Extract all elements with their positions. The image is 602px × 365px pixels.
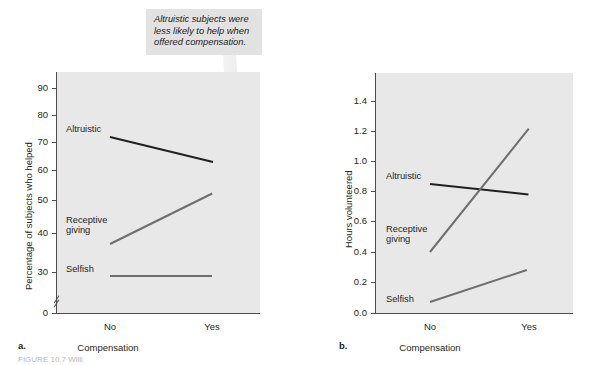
series-label-b-receptive-giving: Receptive giving — [386, 224, 427, 245]
chart-panel-b: Hours volunteered Compensation 1.4 1.2 1… — [0, 0, 602, 355]
y-tick-label-b-1-0: 1.0 — [330, 156, 367, 166]
y-tick-b-0-6 — [371, 221, 375, 222]
y-tick-label-b-0-0: 0.0 — [330, 308, 367, 318]
series-label-b-altruistic: Altruistic — [386, 171, 421, 181]
x-axis-title-b: Compensation — [380, 342, 480, 353]
x-tick-label-b-no: No — [400, 322, 460, 332]
y-tick-label-b-0-4: 0.4 — [330, 247, 367, 257]
figure-root: Altruistic subjects were less likely to … — [0, 0, 602, 365]
y-tick-label-b-0-6: 0.6 — [330, 216, 367, 226]
y-tick-label-b-0-2: 0.2 — [330, 277, 367, 287]
y-tick-label-b-1-2: 1.2 — [330, 126, 367, 136]
panel-letter-b: b. — [339, 340, 347, 351]
x-axis-line-b — [375, 313, 573, 314]
y-tick-b-0-8 — [371, 191, 375, 192]
y-tick-b-1-2 — [371, 131, 375, 132]
y-tick-b-1-4 — [371, 101, 375, 102]
y-tick-b-0-2 — [371, 282, 375, 283]
y-tick-label-b-1-4: 1.4 — [330, 96, 367, 106]
figure-caption: FIGURE 10.7 Willi — [18, 355, 83, 364]
y-axis-title-b: Hours volunteered — [343, 170, 354, 248]
y-tick-b-1-0 — [371, 161, 375, 162]
y-tick-b-0-0 — [371, 313, 375, 314]
y-axis-line-b — [375, 73, 376, 314]
x-tick-label-b-yes: Yes — [499, 322, 559, 332]
series-label-b-selfish: Selfish — [386, 294, 414, 304]
y-tick-b-0-4 — [371, 252, 375, 253]
y-tick-label-b-0-8: 0.8 — [330, 186, 367, 196]
